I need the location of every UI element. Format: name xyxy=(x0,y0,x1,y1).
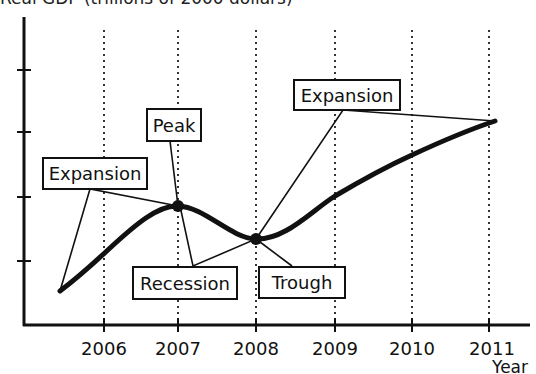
peak-marker xyxy=(172,200,184,212)
leader-trough xyxy=(256,239,292,266)
leader-peak xyxy=(170,141,178,206)
callout-recession: Recession xyxy=(132,266,238,300)
x-axis-title: Year xyxy=(492,357,528,374)
trough-marker xyxy=(250,233,262,245)
callout-peak: Peak xyxy=(146,108,202,142)
x-tick-label-2011: 2011 xyxy=(469,338,515,359)
callout-expansion-left: Expansion xyxy=(42,157,148,190)
x-tick-label-2007: 2007 xyxy=(155,338,201,359)
x-tick-label-2008: 2008 xyxy=(233,338,279,359)
x-tick-label-2010: 2010 xyxy=(389,338,435,359)
leader-lines xyxy=(60,110,495,291)
callout-trough: Trough xyxy=(258,266,346,299)
callout-expansion-right: Expansion xyxy=(293,79,401,111)
x-tick-label-2006: 2006 xyxy=(81,338,127,359)
x-tick-label-2009: 2009 xyxy=(312,338,358,359)
